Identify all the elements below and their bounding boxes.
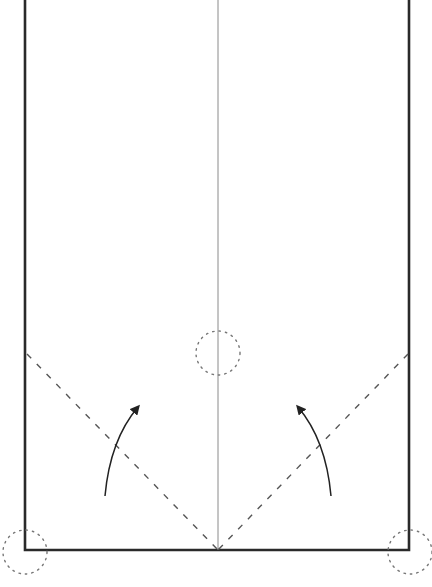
left-corner-fold [27, 354, 218, 550]
right-corner-fold [218, 354, 408, 550]
paper-edge [25, 0, 409, 550]
paper-sheet [25, 0, 409, 550]
left-fold-arrow-icon [105, 407, 138, 496]
right-fold-arrow-icon [298, 407, 331, 496]
origami-diagram [0, 0, 432, 587]
